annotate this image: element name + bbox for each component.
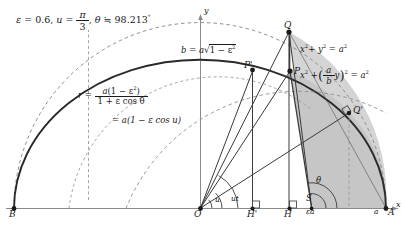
circle-equation: x2+ y2 = a2 [300, 44, 347, 53]
segment-label-epsilon-a: εa [306, 208, 315, 216]
b-equals: = [189, 45, 196, 55]
title-theta-value: 98.213 [115, 14, 148, 25]
title-comma2: , [89, 14, 92, 25]
point-label-O: O [194, 209, 201, 219]
radius-formula: r = a(1 − ε2) 1 + ε cos θ [78, 86, 148, 106]
b-symbol: b [181, 45, 186, 55]
title-equation: ε = 0.6, u = π 3 , θ ≒ 98.213° [16, 10, 151, 31]
figure-canvas: ε = 0.6, u = π 3 , θ ≒ 98.213° b = a√1 −… [0, 0, 406, 228]
angle-label-theta: θ [316, 176, 321, 185]
r-symbol: r [78, 90, 82, 100]
point-label-A: A [388, 207, 395, 217]
title-eq2: = [65, 14, 73, 25]
r-alt-expression: a(1 − ε cos u) [122, 115, 181, 125]
r-alt-equals: = [112, 115, 119, 125]
point-label-B: B [9, 209, 16, 219]
point-label-Q: Q [284, 20, 291, 30]
title-u-denominator: 3 [76, 21, 88, 31]
r-numerator: a(1 − ε2) [95, 86, 148, 97]
title-u: u [56, 14, 62, 25]
title-u-fraction: π 3 [76, 10, 88, 31]
title-u-numerator: π [76, 10, 88, 21]
title-approx: ≒ [104, 14, 112, 25]
title-theta: θ [95, 14, 101, 25]
title-epsilon-value: 0.6 [35, 14, 50, 25]
b-radicand: 1 − ε2 [209, 44, 237, 54]
geometry-svg [0, 0, 406, 228]
angle-label-u: u [215, 196, 220, 204]
sqrt-icon: √1 − ε2 [204, 44, 236, 55]
ellipse-equation: x2 +(aby)2 = a2 [300, 66, 369, 85]
r-denominator: 1 + ε cos θ [95, 97, 148, 106]
y-axis-label: y [204, 6, 209, 15]
r-equals: = [85, 90, 92, 100]
r-fraction: a(1 − ε2) 1 + ε cos θ [95, 86, 148, 106]
angle-label-ut: ut [231, 195, 239, 203]
title-epsilon: ε [16, 14, 21, 25]
point-label-H: H [284, 209, 292, 219]
sector-area-label-S: S [306, 194, 312, 203]
title-eq1: = [24, 14, 32, 25]
semi-minor-axis-formula: b = a√1 − ε2 [181, 44, 236, 55]
point-label-H-prime: H' [247, 209, 257, 219]
x-axis-label: x [396, 200, 401, 209]
radius-formula-alt: = a(1 − ε cos u) [112, 116, 181, 125]
point-label-P-prime: P' [244, 60, 253, 70]
point-label-Q-prime: Q' [353, 105, 363, 115]
point-label-P: P [294, 66, 300, 76]
a-over-b-fraction: ab [323, 66, 334, 85]
degree-icon: ° [148, 14, 151, 20]
segment-label-a: a [374, 208, 378, 216]
title-comma1: , [50, 14, 53, 25]
